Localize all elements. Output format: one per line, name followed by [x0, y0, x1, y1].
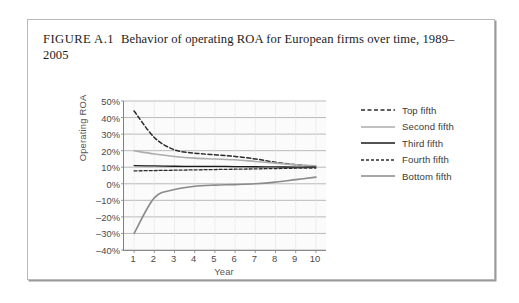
plot-area: [123, 101, 326, 251]
x-axis-tick-label: 4: [191, 253, 196, 264]
series-line: [134, 151, 316, 166]
legend-line-swatch: [361, 171, 395, 181]
legend-item: Bottom fifth: [361, 168, 489, 185]
legend-label: Bottom fifth: [402, 171, 452, 182]
y-axis-tick-label: 40%: [86, 112, 120, 123]
legend-label: Fourth fifth: [402, 154, 449, 165]
x-axis-tick-label: 3: [171, 253, 176, 264]
legend-line-swatch: [361, 105, 395, 115]
x-axis-tick-labels: 12345678910: [123, 253, 325, 267]
x-axis-tick-label: 5: [211, 253, 216, 264]
y-axis-tick-label: –30%: [86, 228, 120, 239]
y-axis-tick-label: 0%: [86, 178, 120, 189]
series-line: [134, 166, 316, 167]
legend-item: Third fifth: [361, 135, 489, 152]
legend-line-swatch: [361, 138, 395, 148]
figure-box: FIGURE A.1Behavior of operating ROA for …: [27, 19, 495, 280]
y-axis-tick-label: 30%: [86, 129, 120, 140]
x-axis-tick-label: 10: [310, 253, 320, 264]
legend-label: Second fifth: [402, 121, 454, 132]
x-axis-tick-label: 7: [252, 253, 257, 264]
x-axis-tick-label: 2: [151, 253, 156, 264]
chart-region: Operating ROA 50%40%30%20%10%0%–10%–20%–…: [56, 80, 492, 270]
figure-caption: FIGURE A.1Behavior of operating ROA for …: [43, 31, 468, 63]
x-axis-tick-label: 8: [272, 253, 277, 264]
y-axis-tick-label: 10%: [86, 162, 120, 173]
plot-lines: [124, 101, 326, 250]
figure-label: FIGURE A.1: [43, 32, 114, 46]
legend-item: Top fifth: [361, 102, 489, 119]
legend-item: Second fifth: [361, 119, 489, 136]
y-axis-tick-labels: 50%40%30%20%10%0%–10%–20%–30%–40%: [86, 101, 120, 250]
y-axis-tick-label: 20%: [86, 145, 120, 156]
y-axis-tick-label: 50%: [86, 96, 120, 107]
legend-item: Fourth fifth: [361, 152, 489, 169]
x-axis-title: Year: [123, 266, 325, 277]
series-line: [134, 111, 316, 166]
legend-line-swatch: [361, 155, 395, 165]
x-axis-tick-label: 1: [130, 253, 135, 264]
y-axis-tick-label: –40%: [86, 245, 120, 256]
series-line: [134, 177, 316, 233]
y-axis-tick-label: –20%: [86, 211, 120, 222]
x-axis-tick-label: 9: [292, 253, 297, 264]
chart-legend: Top fifthSecond fifthThird fifthFourth f…: [361, 102, 489, 185]
x-axis-tick-label: 6: [231, 253, 236, 264]
y-axis-tick-label: –10%: [86, 195, 120, 206]
legend-label: Third fifth: [402, 138, 443, 149]
legend-line-swatch: [361, 122, 395, 132]
legend-label: Top fifth: [402, 105, 437, 116]
series-line: [134, 168, 316, 171]
